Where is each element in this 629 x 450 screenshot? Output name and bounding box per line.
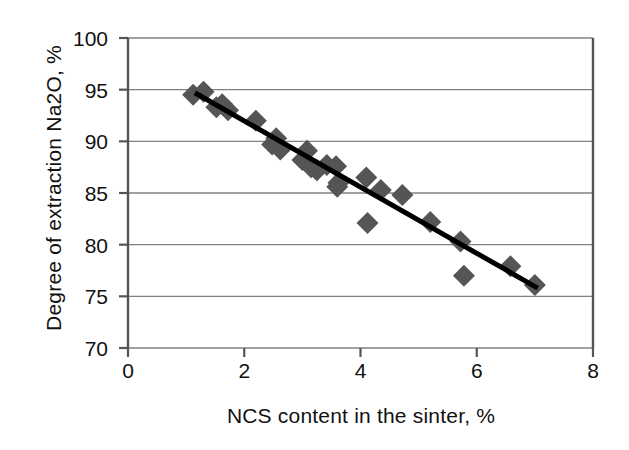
data-point (356, 212, 378, 234)
x-tick-label: 4 (341, 360, 381, 381)
plot-area (0, 0, 629, 450)
data-point (453, 265, 475, 287)
scatter-chart: Degree of extraction Na2O, % 10095908580… (0, 0, 629, 450)
data-point (391, 184, 413, 206)
gridlines (128, 38, 593, 348)
x-tick-label: 8 (573, 360, 613, 381)
x-tick-label: 6 (457, 360, 497, 381)
x-tick-label: 2 (224, 360, 264, 381)
x-axis-title: NCS content in the sinter, % (128, 404, 594, 428)
trendline (195, 93, 538, 288)
axis-ticks (119, 38, 593, 357)
x-tick-label: 0 (108, 360, 148, 381)
